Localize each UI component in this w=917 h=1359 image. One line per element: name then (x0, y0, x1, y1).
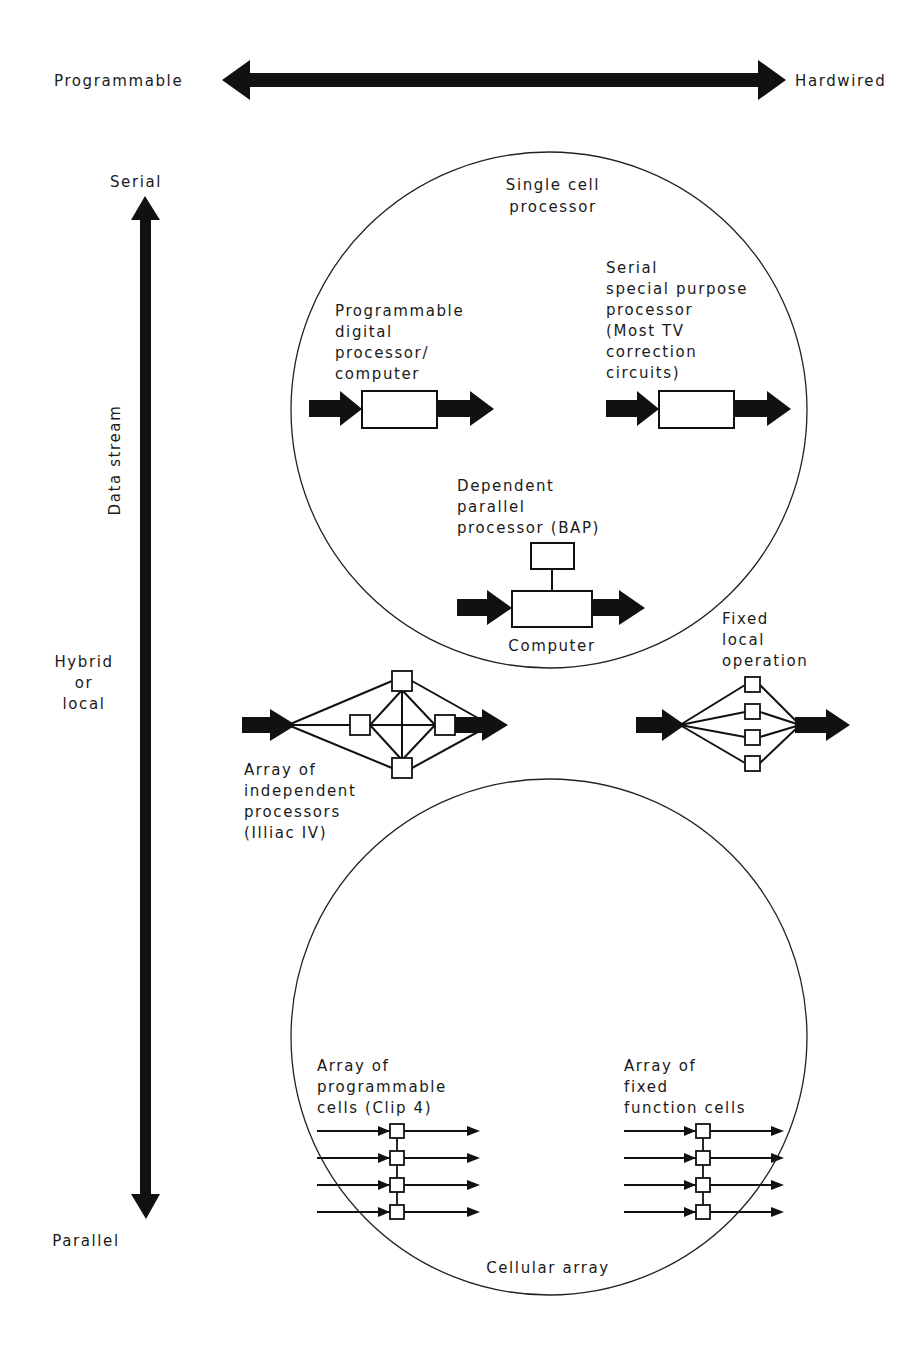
cell-box (390, 1178, 404, 1192)
input-arrowhead-icon (378, 1207, 390, 1217)
node-label-line: (Most TV (606, 322, 685, 340)
output-arrow-icon (795, 709, 850, 741)
node-label-line: parallel (457, 498, 526, 516)
serial-parallel-axis: Serial Data stream Hybrid or local Paral… (52, 173, 162, 1250)
node-label-line: Array of (624, 1057, 696, 1075)
array-fixed-function-cells-node: Array of fixed function cells (624, 1057, 784, 1219)
processor-taxonomy-diagram: Programmable Hardwired Serial Data strea… (0, 0, 917, 1359)
group-title-line: processor (509, 198, 596, 216)
axis-label-hybrid: Hybrid (54, 653, 113, 671)
output-arrowhead-icon (467, 1207, 480, 1217)
double-arrow-horizontal (222, 60, 786, 100)
cell-box (696, 1151, 710, 1165)
input-arrowhead-icon (684, 1126, 696, 1136)
node-label-line: operation (722, 652, 808, 670)
node-label-line: digital (335, 323, 393, 341)
input-arrowhead-icon (378, 1153, 390, 1163)
output-arrow-icon (734, 391, 791, 426)
processor-cell (745, 756, 760, 771)
programmable-hardwired-axis: Programmable Hardwired (54, 60, 886, 100)
cell-box (696, 1124, 710, 1138)
node-label-line: programmable (317, 1078, 447, 1096)
cell-box (696, 1205, 710, 1219)
computer-box (512, 591, 592, 627)
node-label-line: Array of (244, 761, 316, 779)
processor-cell (392, 671, 412, 691)
node-label-line: circuits) (606, 364, 680, 382)
cell-box (696, 1178, 710, 1192)
cell-box (390, 1205, 404, 1219)
output-arrow-icon (592, 590, 645, 625)
input-arrowhead-icon (684, 1207, 696, 1217)
input-arrowhead-icon (684, 1180, 696, 1190)
node-label-line: local (722, 631, 765, 649)
double-arrow-vertical (131, 196, 160, 1219)
computer-label: Computer (508, 637, 595, 655)
dependent-parallel-processor-node: Dependent parallel processor (BAP) Compu… (457, 477, 645, 655)
input-arrowhead-icon (378, 1180, 390, 1190)
axis-label-parallel: Parallel (52, 1232, 119, 1250)
fixed-local-operation-node: Fixed local operation (636, 610, 850, 771)
node-label-line: Serial (606, 259, 658, 277)
cell-rows (317, 1124, 480, 1219)
output-arrow-icon (455, 709, 508, 741)
processor-cell (745, 704, 760, 719)
node-label-line: correction (606, 343, 697, 361)
single-cell-processor-group: Single cell processor Programmable digit… (291, 152, 807, 668)
cell-box (390, 1124, 404, 1138)
cellular-array-group: Cellular array Array of programmable cel… (291, 779, 807, 1295)
node-label-line: independent (244, 782, 356, 800)
output-arrowhead-icon (771, 1153, 784, 1163)
node-label-line: Fixed (722, 610, 769, 628)
output-arrowhead-icon (771, 1180, 784, 1190)
node-label-line: special purpose (606, 280, 748, 298)
node-label-line: processor (BAP) (457, 519, 600, 537)
node-label-line: fixed (624, 1078, 669, 1096)
cell-box (390, 1151, 404, 1165)
group-title-line: Single cell (506, 176, 600, 194)
input-arrowhead-icon (378, 1126, 390, 1136)
node-label-line: processors (244, 803, 341, 821)
axis-label-or: or (75, 674, 94, 692)
input-arrow-icon (606, 391, 659, 426)
node-label-line: Array of (317, 1057, 389, 1075)
processor-cell (350, 715, 370, 735)
node-label-line: (Illiac IV) (244, 824, 327, 842)
output-arrowhead-icon (467, 1153, 480, 1163)
axis-label-local: local (63, 695, 106, 713)
input-arrowhead-icon (684, 1153, 696, 1163)
node-label-line: Programmable (335, 302, 464, 320)
cellular-array-circle (291, 779, 807, 1295)
node-label-line: computer (335, 365, 420, 383)
node-label-line: function cells (624, 1099, 746, 1117)
processor-box (362, 391, 437, 428)
serial-special-purpose-processor-node: Serial special purpose processor (Most T… (606, 259, 791, 428)
axis-title-data-stream: Data stream (106, 405, 124, 516)
output-arrowhead-icon (467, 1126, 480, 1136)
node-label-line: processor/ (335, 344, 429, 362)
axis-label-hardwired: Hardwired (795, 72, 886, 90)
processor-cell (435, 715, 455, 735)
input-arrow-icon (309, 391, 362, 426)
input-arrow-icon (242, 709, 296, 741)
programmable-digital-processor-node: Programmable digital processor/ computer (309, 302, 494, 428)
group-title: Cellular array (486, 1259, 610, 1277)
input-arrow-icon (457, 590, 512, 625)
axis-label-serial: Serial (110, 173, 162, 191)
node-label-line: cells (Clip 4) (317, 1099, 432, 1117)
output-arrow-icon (437, 391, 494, 426)
output-arrowhead-icon (771, 1207, 784, 1217)
processor-cell (392, 758, 412, 778)
axis-label-programmable: Programmable (54, 72, 183, 90)
input-arrow-icon (636, 709, 685, 741)
array-independent-processors-node: Array of independent processors (Illiac … (242, 671, 508, 842)
output-arrowhead-icon (771, 1126, 784, 1136)
attached-processor-box (531, 543, 574, 569)
processor-cell (745, 677, 760, 692)
node-label-line: processor (606, 301, 693, 319)
output-arrowhead-icon (467, 1180, 480, 1190)
array-programmable-cells-node: Array of programmable cells (Clip 4) (317, 1057, 480, 1219)
processor-box (659, 391, 734, 428)
node-label-line: Dependent (457, 477, 555, 495)
processor-cell (745, 730, 760, 745)
